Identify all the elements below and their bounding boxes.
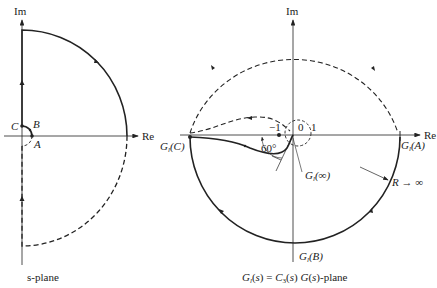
s-plane-plot: Im Re C B A s-plane (4, 5, 154, 283)
point-B-label: B (33, 118, 40, 130)
arrow-up-icon (20, 80, 25, 85)
tick-minus-one: −1 (269, 121, 281, 133)
angle-label: 60° (261, 142, 276, 154)
right-caption: Gl(s) = C3(s) G(s)-plane (242, 271, 348, 285)
label-g-c: Gl(C) (160, 140, 185, 154)
right-re-label: Re (424, 129, 436, 141)
label-r-inf: R → ∞ (391, 176, 423, 188)
nyquist-diagram: Im Re C B A s-plane Im Re (0, 0, 437, 288)
left-re-label: Re (142, 130, 154, 142)
right-solid-big-arc (190, 137, 400, 243)
right-solid-curve (190, 135, 293, 154)
label-g-inf: Gl(∞) (305, 169, 330, 183)
label-g-a: Gl(A) (401, 139, 425, 153)
arrow-up-icon (20, 196, 25, 201)
tick-zero: 0 (298, 121, 304, 133)
left-contour-dashed (22, 136, 127, 246)
left-im-label: Im (14, 5, 27, 17)
left-caption: s-plane (27, 271, 59, 283)
tick-one: 1 (311, 121, 317, 133)
arrow-icon (247, 116, 252, 120)
right-dashed-big-arc (190, 59, 398, 133)
label-g-b: Gl(B) (299, 250, 323, 264)
right-im-label: Im (286, 5, 299, 17)
minus-one-point (277, 133, 281, 137)
arrow-icon (371, 66, 375, 71)
gl-plane-plot: Im Re −1 0 1 (160, 5, 436, 285)
point-A-label: A (33, 138, 41, 150)
arrow-icon (211, 65, 215, 70)
point-C-label: C (11, 120, 19, 132)
